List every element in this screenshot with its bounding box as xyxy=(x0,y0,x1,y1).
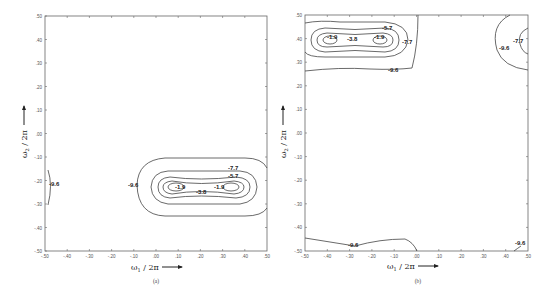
contour-line xyxy=(223,183,239,191)
y-axis-title-a: ω2 / 2π xyxy=(20,130,30,158)
y-tick-label: -.40 xyxy=(294,225,302,230)
contour-label: -1.9 xyxy=(327,34,338,40)
contours-b: -5.7 -1.9 -3.8 -1.9 -7.7 -9.6 -9.6 -7.7 … xyxy=(305,15,528,251)
contour-label: -3.8 xyxy=(196,189,207,195)
contour-label: -1.9 xyxy=(374,34,385,40)
x-tick-label: .10 xyxy=(175,254,182,259)
x-tick-label: .50 xyxy=(264,254,271,259)
caption-a: (a) xyxy=(153,278,159,285)
x-axis-b: -.50 -.40 -.30 -.20 -.10 .00 .10 .20 .30… xyxy=(301,15,532,259)
contour-line xyxy=(514,246,521,251)
y-tick-label: .50 xyxy=(36,14,43,19)
y-tick-label: -.40 xyxy=(34,226,42,231)
contour-label: -7.7 xyxy=(228,165,239,171)
caption-b: (b) xyxy=(415,278,422,285)
contour-label: -9.6 xyxy=(515,240,526,246)
y-tick-label: -.30 xyxy=(34,202,42,207)
contour-label: -9.6 xyxy=(348,242,359,248)
y-tick-label: -.30 xyxy=(294,202,302,207)
contour-label: -3.8 xyxy=(347,36,358,42)
y-tick-label: .10 xyxy=(36,108,43,113)
x-tick-label: -.10 xyxy=(130,254,138,259)
plot-frame-b xyxy=(305,15,528,251)
contour-label: -9.6 xyxy=(49,181,60,187)
y-tick-label: .40 xyxy=(36,38,43,43)
y-axis-title-b: ω2 / 2π xyxy=(279,130,289,158)
x-tick-label: .50 xyxy=(525,254,532,259)
y-tick-label: -.10 xyxy=(294,155,302,160)
y-tick-label: .30 xyxy=(296,60,303,65)
contour-label: -1.9 xyxy=(175,184,186,190)
contour-label: -7.7 xyxy=(513,38,524,44)
x-tick-label: .30 xyxy=(219,254,226,259)
y-tick-label: .50 xyxy=(296,13,303,18)
contour-label: -5.7 xyxy=(382,25,393,31)
contour-line xyxy=(151,171,257,204)
panel-a: .50 .40 .30 .20 .10 .00 -.10 -.20 -.30 -… xyxy=(20,14,271,285)
x-tick-label: -.20 xyxy=(368,254,376,259)
y-axis-b: .50 .40 .30 .20 .10 .00 -.10 -.20 -.30 -… xyxy=(294,13,528,254)
contours-a: -9.6 -9.6 -7.7 -5.7 -3.8 -1.9 -1.9 xyxy=(48,158,267,216)
contour-label: -5.7 xyxy=(228,173,239,179)
contour-label: -1.9 xyxy=(214,184,225,190)
x-tick-label: .20 xyxy=(458,254,465,259)
x-tick-label: -.50 xyxy=(301,254,309,259)
contour-label: -9.6 xyxy=(388,67,399,73)
panel-b: .50 .40 .30 .20 .10 .00 -.10 -.20 -.30 -… xyxy=(279,13,532,285)
x-tick-label: .20 xyxy=(197,254,204,259)
contour-line xyxy=(137,158,267,216)
y-axis-a: .50 .40 .30 .20 .10 .00 -.10 -.20 -.30 -… xyxy=(34,14,267,254)
x-axis-title-b: ω1 / 2π xyxy=(387,262,415,272)
x-tick-label: -.30 xyxy=(86,254,94,259)
x-tick-label: -.40 xyxy=(323,254,331,259)
contour-label: -9.6 xyxy=(128,182,139,188)
x-tick-label: -.40 xyxy=(63,254,71,259)
y-tick-label: .20 xyxy=(36,85,43,90)
contour-label: -9.6 xyxy=(499,45,510,51)
y-tick-label: .00 xyxy=(36,132,43,137)
y-tick-label: -.20 xyxy=(34,179,42,184)
x-axis-title-a: ω1 / 2π xyxy=(131,263,159,273)
x-tick-label: .30 xyxy=(480,254,487,259)
y-tick-label: .20 xyxy=(296,84,303,89)
x-tick-label: -.50 xyxy=(41,254,49,259)
contour-line xyxy=(305,238,417,251)
figure: .50 .40 .30 .20 .10 .00 -.10 -.20 -.30 -… xyxy=(0,0,547,292)
x-tick-label: .40 xyxy=(503,254,510,259)
contour-line xyxy=(48,170,51,205)
contour-label: -7.7 xyxy=(402,39,413,45)
y-tick-label: .40 xyxy=(296,37,303,42)
y-tick-label: .00 xyxy=(296,131,303,136)
x-tick-label: .40 xyxy=(242,254,249,259)
y-tick-label: -.20 xyxy=(294,178,302,183)
x-tick-label: .10 xyxy=(436,254,443,259)
x-tick-label: -.10 xyxy=(390,254,398,259)
x-tick-label: .00 xyxy=(413,254,420,259)
x-axis-a: -.50 -.40 -.30 -.20 -.10 .00 .10 .20 .30… xyxy=(41,16,271,259)
y-tick-label: .30 xyxy=(36,61,43,66)
y-tick-label: -.10 xyxy=(34,155,42,160)
x-tick-label: -.20 xyxy=(108,254,116,259)
x-tick-label: -.30 xyxy=(346,254,354,259)
x-tick-label: .00 xyxy=(153,254,160,259)
y-tick-label: .10 xyxy=(296,107,303,112)
